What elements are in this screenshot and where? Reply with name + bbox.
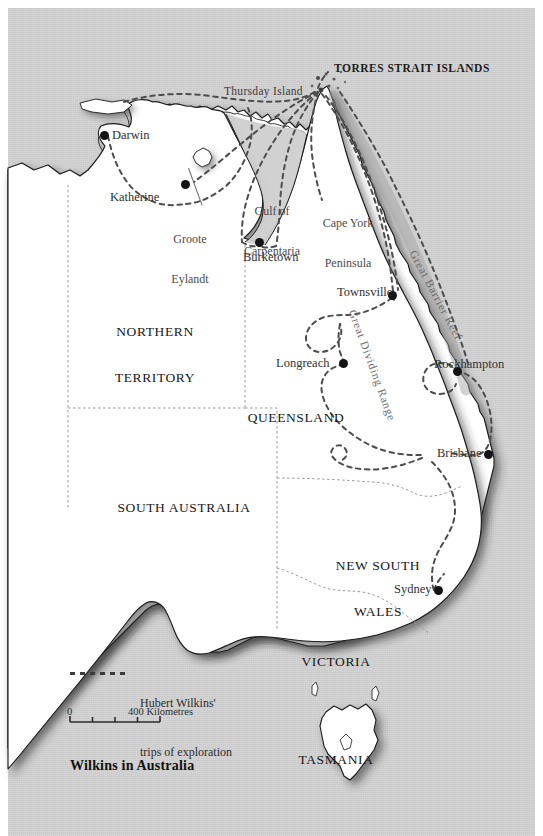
- cape-line-2: Peninsula: [302, 257, 394, 270]
- legend-route-swatch: [70, 672, 128, 675]
- nsw-line-1: NEW SOUTH: [318, 558, 438, 573]
- map-title: Wilkins in Australia: [70, 758, 194, 774]
- island-label-thursday-island: Thursday Island: [224, 85, 303, 98]
- city-dot-burketown[interactable]: [255, 238, 264, 247]
- city-label-katherine: Katherine: [110, 190, 159, 204]
- vic-line-1: VICTORIA: [286, 654, 386, 669]
- groote-line-2: Eylandt: [148, 273, 232, 286]
- map-figure: NORTHERN TERRITORY QUEENSLAND SOUTH AUST…: [0, 0, 543, 836]
- tas-line-1: TASMANIA: [286, 752, 386, 767]
- city-dot-darwin[interactable]: [100, 131, 109, 140]
- state-label-queensland: QUEENSLAND: [236, 380, 356, 456]
- region-label-groote-eylandt: Groote Eylandt: [148, 206, 232, 314]
- city-label-rockhampton: Rockhampton: [434, 357, 504, 371]
- city-dot-katherine[interactable]: [181, 180, 190, 189]
- city-label-longreach: Longreach: [276, 356, 329, 370]
- city-label-burketown: Burketown: [243, 250, 299, 264]
- region-label-cape-york-peninsula: Cape York Peninsula: [302, 190, 394, 298]
- state-label-tasmania: TASMANIA: [286, 722, 386, 798]
- city-label-townsville: Townsville: [337, 285, 392, 299]
- nt-line-1: NORTHERN: [100, 324, 210, 339]
- sa-line-1: SOUTH AUSTRALIA: [104, 500, 264, 515]
- city-label-brisbane: Brisbane: [437, 446, 481, 460]
- cape-line-1: Cape York: [302, 217, 394, 230]
- city-label-sydney: Sydney: [394, 582, 432, 596]
- city-dot-brisbane[interactable]: [484, 450, 493, 459]
- city-dot-longreach[interactable]: [339, 359, 348, 368]
- state-label-victoria: VICTORIA: [286, 624, 386, 700]
- nt-line-2: TERRITORY: [100, 370, 210, 385]
- city-label-darwin: Darwin: [112, 128, 150, 142]
- island-label-torres-strait-islands: TORRES STRAIT ISLANDS: [334, 62, 490, 75]
- state-label-south-australia: SOUTH AUSTRALIA: [104, 470, 264, 546]
- qld-line-1: QUEENSLAND: [236, 410, 356, 425]
- nsw-line-2: WALES: [318, 604, 438, 619]
- groote-line-1: Groote: [148, 233, 232, 246]
- scale-start-label: 0: [67, 706, 72, 718]
- city-dot-sydney[interactable]: [434, 586, 443, 595]
- scale-end-label: 400 Kilometres: [128, 706, 193, 718]
